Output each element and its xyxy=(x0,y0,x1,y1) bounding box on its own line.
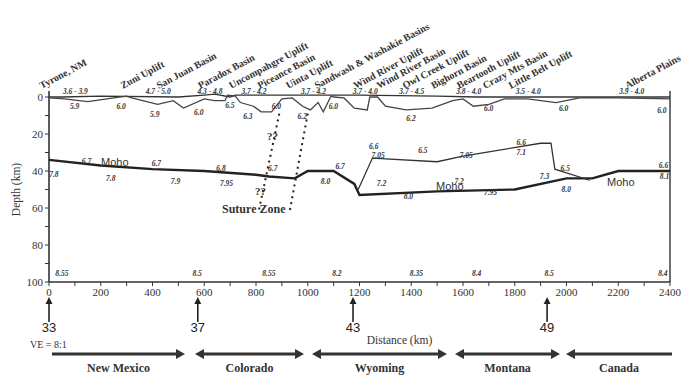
x-tick-label: 0 xyxy=(46,286,52,298)
latitude-label: 43 xyxy=(346,320,360,335)
sediment-velocity: 3.6 - 3.9 xyxy=(62,87,88,96)
y-tick-label: 100 xyxy=(27,276,44,288)
mantle-velocity: 7.8 xyxy=(49,170,59,179)
lower-crust-velocity: 7.3 xyxy=(540,172,550,181)
x-axis-label: Distance (km) xyxy=(367,334,433,347)
arrow-left-icon xyxy=(312,349,321,359)
lower-crust-velocity: 6.5 xyxy=(561,164,571,173)
arrow-head-icon xyxy=(194,297,201,304)
state-label: New Mexico xyxy=(87,361,150,375)
upper-crust-velocity: 6.2 xyxy=(298,112,308,121)
x-tick-label: 1000 xyxy=(297,286,320,298)
unknown-marker: ?? xyxy=(255,185,266,197)
arrow-right-icon xyxy=(551,349,560,359)
upper-crust-velocity: 5.9 xyxy=(150,110,160,119)
arrow-right-icon xyxy=(176,349,185,359)
lower-crust-velocity: 6.7 xyxy=(335,162,345,171)
arrow-right-icon xyxy=(295,349,304,359)
lower-crust-velocity: 6.7 xyxy=(82,157,92,166)
x-tick-label: 200 xyxy=(93,286,110,298)
x-tick-label: 2000 xyxy=(556,286,579,298)
x-tick-label: 1800 xyxy=(504,286,527,298)
annotations: Tyrone, NMZuni UpliftSan Juan BasinParad… xyxy=(38,21,683,278)
upper-crust-velocity: 6.2 xyxy=(406,114,416,123)
suture-line-right xyxy=(290,114,308,212)
unknown-marker: ?? xyxy=(267,130,278,142)
mantle-velocity: 7.8 xyxy=(106,174,116,183)
lower-crust-velocity: 7.2 xyxy=(377,179,387,188)
mantle-velocity: 8.0 xyxy=(404,192,414,201)
moho-line xyxy=(49,160,670,195)
state-label: Wyoming xyxy=(355,361,405,375)
arrow-head-icon xyxy=(350,297,357,304)
state-label: Montana xyxy=(484,361,531,375)
bottom-legend: 33374349New MexicoColoradoWyomingMontana… xyxy=(42,297,672,375)
latitude-label: 49 xyxy=(540,320,554,335)
y-axis-label: Depth (km) xyxy=(10,163,23,217)
sediment-velocity: 3.7 - 4.5 xyxy=(398,87,424,96)
vertical-exaggeration: VE = 8:1 xyxy=(30,339,67,350)
upper-crust-velocity: 6.5 xyxy=(225,101,235,110)
upper-crust-velocity: 6.0 xyxy=(116,102,126,111)
lower-crust-velocity: 6.7 xyxy=(268,164,278,173)
upper-crust-velocity: 6.0 xyxy=(272,102,282,111)
sediment-velocity: 4.3 - 4.8 xyxy=(196,87,222,96)
lower-crust-velocity: 6.6 xyxy=(517,138,527,147)
y-tick-label: 80 xyxy=(32,239,44,251)
deep-velocity: 8.2 xyxy=(332,269,342,278)
deep-velocity: 8.35 xyxy=(410,269,423,278)
sediment-velocity: 3.8 - 4.0 xyxy=(455,87,481,96)
arrow-left-icon xyxy=(195,349,204,359)
mantle-velocity: 7.95 xyxy=(220,179,233,188)
x-tick-label: 2200 xyxy=(607,286,630,298)
y-tick-label: 60 xyxy=(32,202,44,214)
mantle-velocity: 7.9 xyxy=(171,177,181,186)
deep-velocity: 8.55 xyxy=(55,269,68,278)
sediment-velocity: 3.5 - 4.0 xyxy=(515,87,541,96)
y-tick-label: 20 xyxy=(32,128,44,140)
arrow-left-icon xyxy=(566,349,575,359)
x-tick-label: 1200 xyxy=(349,286,372,298)
state-label: Colorado xyxy=(226,361,274,375)
x-tick-label: 1600 xyxy=(452,286,475,298)
feature-label: Tyrone, NM xyxy=(38,56,89,90)
feature-label: Alberta Plains xyxy=(623,52,682,91)
crustal-cross-section: 0204060801000200400600800100012001400160… xyxy=(0,0,692,385)
lower-crust-velocity: 7.05 xyxy=(372,151,385,160)
lower-crust-body xyxy=(358,143,590,189)
deep-velocity: 8.55 xyxy=(262,269,275,278)
lower-crust-velocity: 6.7 xyxy=(152,159,162,168)
lower-crust-velocity: 7.1 xyxy=(517,148,526,157)
structure-lines xyxy=(49,94,670,211)
lower-crust-velocity: 6.5 xyxy=(418,146,428,155)
suture-zone-label: Suture Zone xyxy=(222,202,286,216)
deep-velocity: 8.5 xyxy=(192,269,202,278)
upper-crust-velocity: 5.9 xyxy=(70,102,80,111)
state-label: Canada xyxy=(599,361,639,375)
deep-velocity: 8.4 xyxy=(472,269,482,278)
lower-crust-velocity: 6.8 xyxy=(216,164,226,173)
moho-label: Moho xyxy=(101,156,129,168)
upper-crust-velocity: 6.0 xyxy=(559,104,569,113)
upper-crust-velocity: 6.3 xyxy=(243,112,253,121)
deep-velocity: 8.4 xyxy=(658,269,668,278)
lower-crust-velocity: 6.6 xyxy=(659,161,669,170)
axes: 0204060801000200400600800100012001400160… xyxy=(10,91,682,350)
lower-crust-velocity: 6.6 xyxy=(369,142,379,151)
y-tick-label: 0 xyxy=(38,91,44,103)
x-tick-label: 600 xyxy=(196,286,213,298)
x-tick-label: 400 xyxy=(144,286,161,298)
upper-crust-velocity: 6.0 xyxy=(484,104,494,113)
lower-crust-velocity: 7.05 xyxy=(460,151,473,160)
sediment-velocity: 3.7 - 4.2 xyxy=(240,87,266,96)
x-tick-label: 1400 xyxy=(400,286,423,298)
mantle-velocity: 7.95 xyxy=(484,188,497,197)
latitude-label: 33 xyxy=(42,320,56,335)
sediment-velocity: 3.9 - 4.0 xyxy=(618,87,644,96)
sediment-velocity: 3.7 - 4.0 xyxy=(352,87,378,96)
upper-crust-velocity: 6.0 xyxy=(329,102,339,111)
upper-crust-velocity: 6.0 xyxy=(194,108,204,117)
mantle-velocity: 8.1 xyxy=(660,172,669,181)
arrow-right-icon xyxy=(438,349,447,359)
latitude-label: 37 xyxy=(191,320,205,335)
